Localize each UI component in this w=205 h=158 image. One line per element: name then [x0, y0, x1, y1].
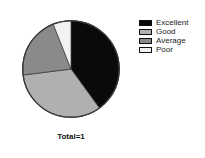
total-label: Total=1 [0, 132, 142, 141]
legend-swatch-average [139, 38, 152, 44]
legend-item-good[interactable]: Good [139, 27, 203, 36]
pie-svg [22, 20, 120, 118]
legend-label-average: Average [156, 36, 186, 45]
chart-legend: Excellent Good Average Poor [139, 18, 203, 54]
legend-swatch-excellent [139, 20, 152, 26]
legend-item-poor[interactable]: Poor [139, 45, 203, 54]
legend-swatch-poor [139, 47, 152, 53]
legend-swatch-good [139, 29, 152, 35]
legend-label-excellent: Excellent [156, 18, 188, 27]
pie-chart-figure: Excellent Good Average Poor Total=1 [0, 0, 205, 158]
legend-label-poor: Poor [156, 45, 173, 54]
legend-item-average[interactable]: Average [139, 36, 203, 45]
legend-item-excellent[interactable]: Excellent [139, 18, 203, 27]
legend-label-good: Good [156, 27, 176, 36]
pie-chart-graphic [22, 20, 120, 118]
